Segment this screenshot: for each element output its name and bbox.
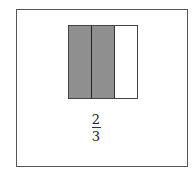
fraction-label: 2 3 (86, 113, 106, 143)
denominator: 3 (92, 130, 100, 143)
part-2-shaded (91, 26, 114, 98)
part-3-unshaded (114, 26, 137, 98)
part-1-shaded (69, 26, 91, 98)
fraction-bar (92, 127, 101, 128)
numerator: 2 (92, 113, 100, 126)
fraction-rectangle (68, 25, 138, 99)
